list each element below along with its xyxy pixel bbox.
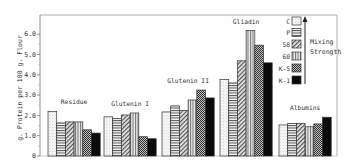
legend-label: K-5	[279, 65, 291, 72]
legend-label: K-1	[279, 77, 291, 84]
bar-k-1	[148, 139, 157, 156]
bar-p	[171, 106, 180, 156]
bar-group-gliadin	[220, 31, 272, 156]
bar-p	[288, 124, 297, 156]
legend-label: P	[286, 29, 290, 36]
legend: CP5860K-5K-1	[279, 17, 301, 84]
bar-58	[179, 111, 188, 156]
legend-item-k-1: K-1	[279, 76, 301, 84]
bar-60	[130, 113, 139, 156]
y-tick-label: 2.0	[24, 112, 36, 120]
legend-item-58: 58	[282, 40, 301, 48]
y-tick-label: 0	[32, 152, 36, 160]
bar-k-5	[139, 137, 148, 156]
bar-group-residue	[48, 111, 100, 156]
category-label: Glutenin II	[167, 77, 209, 84]
bar-58	[296, 124, 305, 156]
bar-c	[279, 125, 288, 156]
arrow-up-icon	[303, 16, 308, 22]
mixing-strength-arrow	[303, 16, 308, 84]
legend-label: C	[286, 18, 290, 25]
category-label: Albumins	[290, 104, 321, 111]
legend-swatch	[292, 76, 301, 84]
bar-k-5	[314, 124, 323, 156]
legend-item-k-5: K-5	[279, 64, 301, 72]
y-axis-ticks: 01.02.03.04.05.06.0	[24, 30, 40, 160]
bar-k-1	[206, 98, 215, 156]
legend-swatch	[292, 52, 301, 60]
bar-c	[162, 112, 171, 156]
legend-label: 58	[282, 41, 290, 48]
bar-group-glutenin-i	[104, 113, 156, 156]
category-label: Gliadin	[233, 18, 260, 25]
bar-c	[104, 117, 113, 156]
legend-annotation-line2: Strength	[310, 48, 341, 56]
legend-item-p: P	[286, 29, 301, 37]
bar-p	[229, 83, 238, 156]
bar-group-albumins	[279, 117, 331, 156]
bar-60	[188, 100, 197, 156]
legend-annotation-line1: Mixing	[310, 38, 334, 46]
legend-swatch	[292, 40, 301, 48]
legend-item-60: 60	[282, 52, 301, 60]
bar-k-1	[92, 133, 101, 156]
y-tick-label: 5.0	[24, 51, 36, 59]
y-tick-label: 4.0	[24, 71, 36, 79]
bar-p	[113, 118, 122, 156]
y-tick-label: 6.0	[24, 30, 36, 38]
legend-label: 60	[282, 53, 290, 60]
bar-60	[246, 31, 255, 156]
bar-p	[57, 123, 66, 156]
legend-item-c: C	[286, 17, 301, 25]
y-tick-label: 1.0	[24, 132, 36, 140]
legend-swatch	[292, 17, 301, 25]
y-axis-label: g. Protein per 100 g. Flour	[16, 35, 24, 141]
bar-60	[305, 127, 314, 156]
category-label: Glutenin I	[111, 100, 149, 107]
legend-swatch	[292, 29, 301, 37]
bar-58	[121, 115, 130, 156]
bar-60	[74, 122, 83, 156]
bar-group-glutenin-ii	[162, 90, 214, 156]
bar-58	[65, 122, 74, 156]
bar-c	[220, 79, 229, 156]
y-tick-label: 3.0	[24, 91, 36, 99]
bar-58	[237, 61, 246, 156]
bar-groups	[48, 31, 331, 156]
bar-k-5	[83, 130, 92, 156]
category-label: Residue	[61, 98, 88, 105]
legend-swatch	[292, 64, 301, 72]
bar-k-5	[197, 90, 206, 156]
bar-k-1	[323, 117, 332, 156]
bar-c	[48, 111, 57, 156]
protein-fraction-bar-chart: 01.02.03.04.05.06.0 g. Protein per 100 g…	[0, 0, 355, 163]
bar-k-1	[264, 63, 273, 156]
bar-k-5	[255, 45, 264, 156]
